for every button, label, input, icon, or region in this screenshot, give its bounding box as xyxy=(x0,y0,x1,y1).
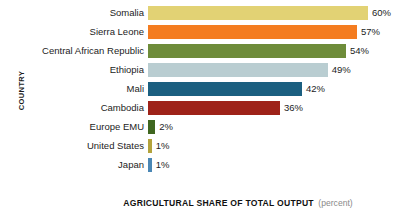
bar-track: 57% xyxy=(148,25,418,39)
plot-area: Somalia60%Sierra Leone57%Central African… xyxy=(0,6,418,177)
bar xyxy=(148,120,155,134)
bar-row: Sierra Leone57% xyxy=(0,25,418,39)
category-label: Japan xyxy=(0,158,148,172)
value-label: 57% xyxy=(361,25,380,39)
bar xyxy=(148,158,152,172)
bar-row: Ethiopia49% xyxy=(0,63,418,77)
bar-chart: COUNTRY Somalia60%Sierra Leone57%Central… xyxy=(0,0,418,219)
value-label: 42% xyxy=(306,82,325,96)
bar-track: 42% xyxy=(148,82,418,96)
category-label: Ethiopia xyxy=(0,63,148,77)
value-label: 60% xyxy=(372,6,391,20)
value-label: 49% xyxy=(332,63,351,77)
bar-row: United States1% xyxy=(0,139,418,153)
bar-track: 60% xyxy=(148,6,418,20)
bar xyxy=(148,6,368,20)
value-label: 1% xyxy=(156,158,170,172)
value-label: 2% xyxy=(159,120,173,134)
bar-row: Japan1% xyxy=(0,158,418,172)
bar xyxy=(148,101,280,115)
bar-track: 2% xyxy=(148,120,418,134)
value-label: 54% xyxy=(350,44,369,58)
bar-row: Cambodia36% xyxy=(0,101,418,115)
bar xyxy=(148,44,346,58)
bar-track: 54% xyxy=(148,44,418,58)
value-label: 1% xyxy=(156,139,170,153)
bar xyxy=(148,63,328,77)
bar-row: Europe EMU2% xyxy=(0,120,418,134)
bar-track: 36% xyxy=(148,101,418,115)
bar xyxy=(148,139,152,153)
category-label: Europe EMU xyxy=(0,120,148,134)
category-label: Mali xyxy=(0,82,148,96)
bar-track: 1% xyxy=(148,158,418,172)
bar-track: 1% xyxy=(148,139,418,153)
bar-row: Somalia60% xyxy=(0,6,418,20)
x-axis-unit-text: (percent) xyxy=(318,198,352,208)
category-label: United States xyxy=(0,139,148,153)
category-label: Central African Republic xyxy=(0,44,148,58)
bar xyxy=(148,82,302,96)
value-label: 36% xyxy=(284,101,303,115)
x-axis-title-text: AGRICULTURAL SHARE OF TOTAL OUTPUT xyxy=(123,198,314,208)
category-label: Cambodia xyxy=(0,101,148,115)
bar-track: 49% xyxy=(148,63,418,77)
category-label: Sierra Leone xyxy=(0,25,148,39)
x-axis-title: AGRICULTURAL SHARE OF TOTAL OUTPUT (perc… xyxy=(0,192,418,210)
bar xyxy=(148,25,357,39)
category-label: Somalia xyxy=(0,6,148,20)
bar-row: Mali42% xyxy=(0,82,418,96)
bar-row: Central African Republic54% xyxy=(0,44,418,58)
